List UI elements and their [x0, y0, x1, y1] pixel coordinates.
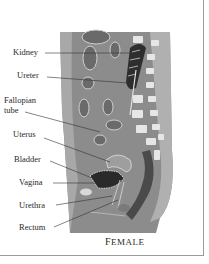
label-fallopian-tube-line2: tube [4, 105, 19, 115]
caption-text: FEMALE [105, 237, 145, 247]
label-vagina: Vagina [19, 177, 43, 187]
label-kidney: Kidney [13, 47, 38, 57]
label-fallopian-tube-line1: Fallopian [4, 95, 36, 105]
label-uterus: Uterus [13, 129, 36, 139]
label-ureter: Ureter [17, 70, 39, 80]
label-bladder: Bladder [14, 154, 41, 164]
label-urethra: Urethra [19, 200, 45, 210]
figure-caption: FEMALE [105, 236, 145, 247]
label-rectum: Rectum [19, 222, 45, 232]
